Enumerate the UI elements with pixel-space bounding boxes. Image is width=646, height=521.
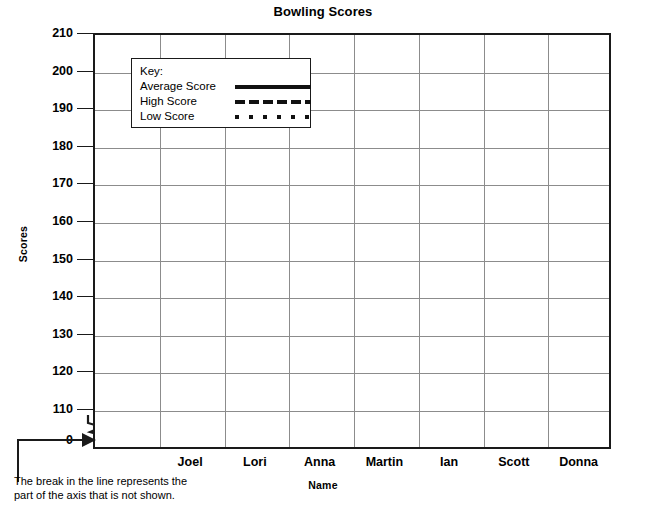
y-axis-tick-label: 210 bbox=[33, 27, 73, 39]
y-axis-tick bbox=[77, 146, 93, 147]
legend-item-average-score: Average Score bbox=[140, 79, 310, 94]
y-axis-tick-label: 110 bbox=[33, 403, 73, 415]
y-axis-tick bbox=[77, 71, 93, 72]
legend-key-box: Key: Average Score High Score Low Score bbox=[131, 58, 311, 128]
chart-title: Bowling Scores bbox=[0, 4, 646, 19]
axis-break-caption: The break in the line represents the par… bbox=[14, 474, 254, 502]
y-axis-tick bbox=[77, 221, 93, 222]
y-axis-tick bbox=[77, 108, 93, 109]
gridline bbox=[95, 148, 609, 149]
gridline bbox=[354, 35, 355, 447]
legend-item-label: Low Score bbox=[140, 109, 194, 124]
y-axis-tick-label: 170 bbox=[33, 177, 73, 189]
gridline bbox=[548, 35, 549, 447]
gridline bbox=[95, 261, 609, 262]
y-axis-tick-label: 200 bbox=[33, 65, 73, 77]
caption-line-1: The break in the line represents the bbox=[14, 474, 254, 488]
gridline bbox=[95, 336, 609, 337]
y-axis-tick-label: 150 bbox=[33, 253, 73, 265]
dashed-line-icon bbox=[235, 100, 311, 104]
legend-item-high-score: High Score bbox=[140, 94, 310, 109]
legend-item-label: Average Score bbox=[140, 79, 216, 94]
y-axis-tick-label: 130 bbox=[33, 328, 73, 340]
gridline bbox=[419, 35, 420, 447]
gridline bbox=[484, 35, 485, 447]
y-axis-tick-label: 190 bbox=[33, 102, 73, 114]
gridline bbox=[95, 411, 609, 412]
x-axis-category-label: Donna bbox=[534, 455, 624, 469]
legend-item-low-score: Low Score bbox=[140, 109, 310, 124]
y-axis-tick bbox=[77, 334, 93, 335]
y-axis-tick-label: 180 bbox=[33, 140, 73, 152]
legend-item-label: High Score bbox=[140, 94, 197, 109]
gridline bbox=[95, 223, 609, 224]
gridline bbox=[95, 373, 609, 374]
dotted-line-icon bbox=[235, 115, 311, 119]
y-axis-tick bbox=[77, 296, 93, 297]
y-axis-tick-label: 120 bbox=[33, 365, 73, 377]
bowling-scores-chart: Bowling Scores Scores 210200190180170160… bbox=[0, 0, 646, 521]
y-axis-tick bbox=[77, 183, 93, 184]
y-axis-tick bbox=[77, 33, 93, 34]
gridline bbox=[95, 185, 609, 186]
y-axis-tick-label: 160 bbox=[33, 215, 73, 227]
y-axis-tick bbox=[77, 371, 93, 372]
caption-line-2: part of the axis that is not shown. bbox=[14, 488, 254, 502]
legend-title: Key: bbox=[140, 64, 310, 79]
y-axis-tick bbox=[77, 259, 93, 260]
y-axis-tick bbox=[77, 409, 93, 410]
y-axis-title: Scores bbox=[17, 214, 29, 274]
gridline bbox=[95, 298, 609, 299]
y-axis-tick-label: 140 bbox=[33, 290, 73, 302]
solid-line-icon bbox=[235, 85, 311, 89]
